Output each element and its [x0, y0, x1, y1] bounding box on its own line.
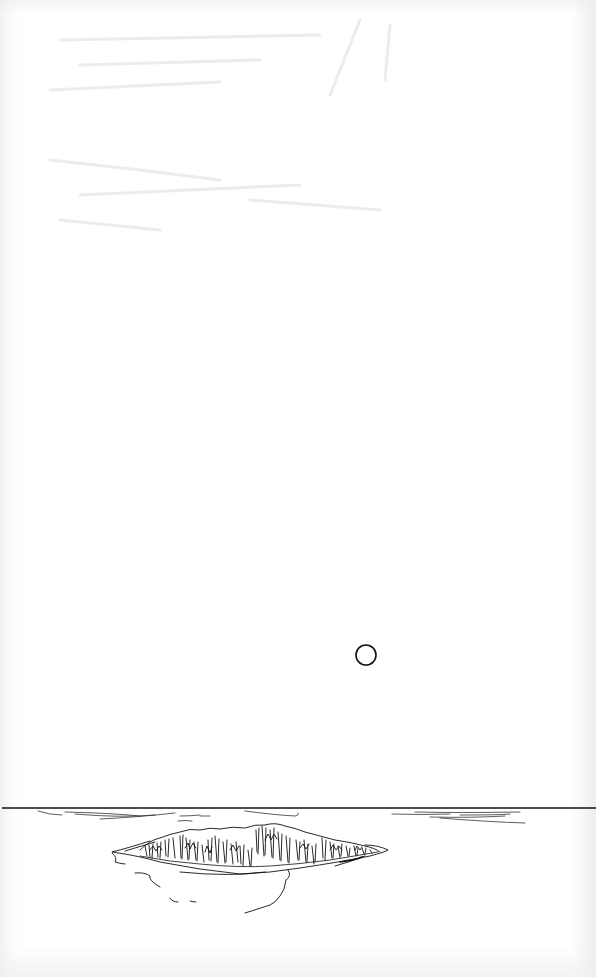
sky-circle — [356, 645, 376, 665]
island-shoreline — [112, 841, 388, 913]
water-ripples-left — [38, 811, 299, 821]
island-illustration — [0, 0, 596, 977]
island-vegetation — [140, 824, 380, 867]
water-ripples-right — [392, 812, 525, 823]
scanned-page — [0, 0, 596, 977]
